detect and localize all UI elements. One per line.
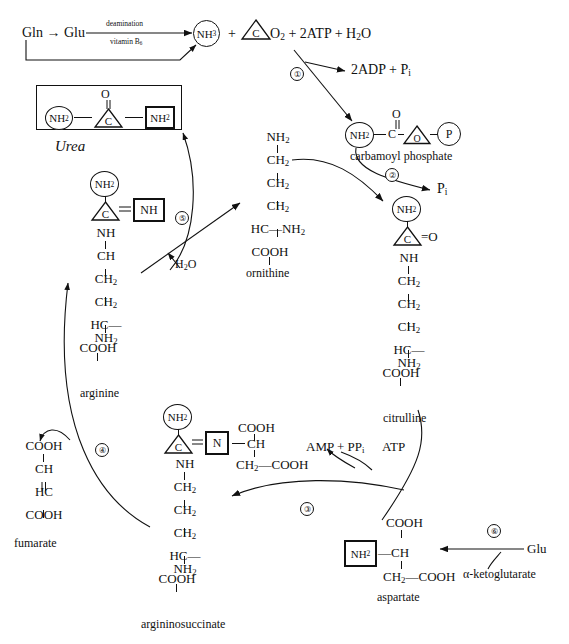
step-2-marker: ②: [385, 168, 399, 182]
step-1-marker: ①: [290, 67, 304, 81]
aspartate-branch-cooh: COOH: [386, 516, 423, 529]
plus-sign-1: +: [228, 27, 236, 41]
cp-bond-1: [374, 134, 386, 135]
step-5-marker: ⑤: [175, 211, 189, 225]
step-3-marker: ③: [300, 502, 314, 516]
aspartate-center-ch: —CH: [378, 546, 409, 559]
citrulline-structure: NH CH2 CH2 CH2 HC—NH2 COOH: [385, 251, 433, 379]
citrulline-label: citrulline: [383, 412, 426, 424]
aspartate-label: aspartate: [377, 591, 420, 603]
step1-arrow: [294, 50, 352, 121]
ornithine-row-ch2-1: CH2: [248, 153, 308, 166]
cp-nh2-circle: NH2: [345, 122, 374, 148]
fumarate-label: fumarate: [14, 537, 57, 549]
aspartate-nh2-square: NH2: [344, 540, 377, 567]
carbamoyl-phosphate-label: carbamoyl phosphate: [350, 150, 452, 162]
cp-carbon-label: C: [388, 128, 396, 140]
citrulline-row-ch2-1: CH2: [385, 274, 433, 287]
o2-atp-h2o-text: O2 + 2ATP + H2O: [270, 27, 371, 43]
adp-branch-arrow: [305, 62, 345, 71]
step3-arrow: [232, 481, 404, 496]
fumarate-structure: COOH CH HC COOH: [18, 439, 70, 521]
svg-text:C: C: [102, 208, 109, 220]
water-label-step5: H2O: [175, 258, 196, 272]
urea-oxygen-label: O: [101, 88, 110, 100]
svg-text:C: C: [252, 27, 259, 39]
urea-bond-right: [125, 117, 143, 118]
vitamin-b6-label: vitamin B6: [110, 38, 142, 46]
arginine-nh2-circle: NH2: [90, 171, 119, 197]
ornithine-structure: NH2 CH2 CH2 CH2 HC—NH2 COOH: [248, 130, 308, 258]
arginine-row-ch: CH: [83, 249, 129, 262]
svg-text:C: C: [404, 233, 411, 245]
argininosuccinate-label: argininosuccinate: [141, 618, 225, 630]
ornithine-label: ornithine: [246, 267, 289, 279]
svg-text:C: C: [105, 115, 112, 127]
fumarate-row-cooh-1: COOH: [18, 439, 70, 452]
urea-nh2-square: NH2: [145, 106, 175, 129]
urea-nh2-circle: NH2: [45, 106, 73, 130]
citrulline-row-nh: NH: [385, 251, 433, 264]
atp-label: ATP: [382, 440, 405, 453]
citrulline-nh2-circle: NH2: [392, 196, 421, 222]
alpha-ketoglutarate-label: α-ketoglutarate: [463, 568, 536, 580]
cp-phosphate-circle: P: [437, 122, 461, 146]
fumarate-row-ch: CH: [18, 462, 70, 475]
argininosuccinate-structure: NH CH2 CH2 CH2 HC—NH2 COOH: [162, 457, 208, 585]
svg-text:C: C: [175, 441, 182, 453]
argsucc-row-ch2-1: CH2: [162, 480, 208, 493]
step-4-marker: ④: [95, 443, 109, 457]
urea-caption: Urea: [55, 139, 85, 154]
arginine-nh-square: NH: [133, 198, 165, 222]
urea-bond-left: [74, 117, 92, 118]
citrulline-carbonyl: =O: [421, 230, 438, 243]
arginine-label: arginine: [80, 387, 119, 399]
argsucc-n-square: N: [205, 431, 229, 455]
ornithine-row-nh2: NH2: [248, 130, 308, 143]
deamination-label: deamination: [106, 20, 143, 28]
amp-ppi-label: AMP + PPi: [306, 440, 364, 455]
urea-cycle-diagram: Gln → Glu deamination vitamin B6 NH3 + C…: [0, 0, 569, 644]
aspartate-branch-ch2cooh: CH2—COOH: [383, 570, 455, 585]
argsucc-branch-cooh: COOH: [238, 421, 275, 434]
argsucc-row-nh: NH: [162, 457, 208, 470]
step-6-marker: ⑥: [487, 524, 501, 538]
adp-pi-label: 2ADP + Pi: [351, 63, 411, 79]
pi-release-label: Pi: [437, 182, 447, 198]
svg-text:O: O: [413, 133, 420, 144]
arginine-row-nh: NH: [83, 226, 129, 239]
argsucc-nh2-circle: NH2: [163, 404, 192, 430]
gln-glu-substrate: Gln → Glu: [22, 26, 85, 40]
glu-label: Glu: [527, 542, 547, 555]
citrulline-to-step3: [382, 410, 422, 520]
argsucc-branch-ch: CH: [247, 437, 265, 450]
argsucc-bond-branch: [232, 443, 245, 444]
cp-oxygen-label: O: [392, 108, 401, 120]
ammonia-circle-token: NH3: [193, 20, 220, 47]
argsucc-branch-ch2cooh: CH2—COOH: [236, 458, 308, 473]
arginine-structure: NH CH CH2 CH2 HC—NH2 COOH: [83, 226, 129, 354]
